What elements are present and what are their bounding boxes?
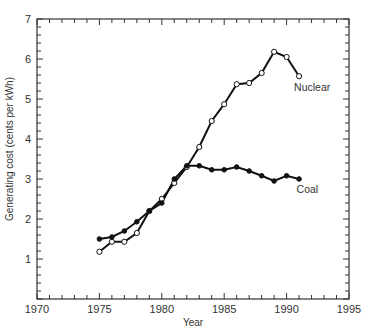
marker-coal [272,179,277,184]
series-label-coal: Coal [297,183,319,195]
x-tick-label: 1985 [212,303,236,315]
y-tick-label: 5 [25,93,31,105]
marker-coal [222,168,227,173]
marker-nuclear [272,49,277,54]
marker-coal [259,174,264,179]
marker-nuclear [197,144,202,149]
marker-nuclear [284,54,289,59]
x-tick-label: 1970 [25,303,49,315]
marker-nuclear [209,118,214,123]
cost-chart: 1970197519801985199019951234567YearGener… [0,0,372,334]
y-tick-label: 4 [25,133,31,145]
plot-frame [37,19,349,299]
series-label-nuclear: Nuclear [294,81,331,93]
x-tick-label: 1975 [87,303,111,315]
series-line-nuclear [99,52,299,252]
marker-coal [97,237,102,242]
marker-coal [247,169,252,174]
y-tick-label: 3 [25,173,31,185]
marker-coal [110,235,115,240]
marker-coal [172,177,177,182]
x-tick-label: 1980 [150,303,174,315]
marker-coal [147,209,152,214]
marker-coal [284,174,289,179]
y-tick-label: 7 [25,13,31,25]
series-layer [97,49,302,254]
marker-nuclear [134,230,139,235]
x-tick-label: 1995 [337,303,361,315]
marker-coal [135,220,140,225]
marker-nuclear [122,239,127,244]
marker-nuclear [222,102,227,107]
y-tick-label: 2 [25,213,31,225]
series-line-coal [99,166,299,239]
marker-nuclear [296,74,301,79]
y-tick-label: 6 [25,53,31,65]
marker-nuclear [259,70,264,75]
marker-nuclear [109,239,114,244]
marker-nuclear [234,82,239,87]
marker-coal [184,164,189,169]
marker-coal [297,177,302,182]
marker-nuclear [97,249,102,254]
marker-nuclear [247,80,252,85]
x-tick-label: 1990 [274,303,298,315]
y-axis-label: Generating cost (cents per kWh) [4,77,15,221]
y-tick-label: 1 [25,253,31,265]
marker-coal [209,168,214,173]
marker-coal [160,201,165,206]
marker-coal [234,165,239,170]
marker-coal [197,164,202,169]
marker-coal [122,229,127,234]
x-axis-label: Year [183,317,204,328]
